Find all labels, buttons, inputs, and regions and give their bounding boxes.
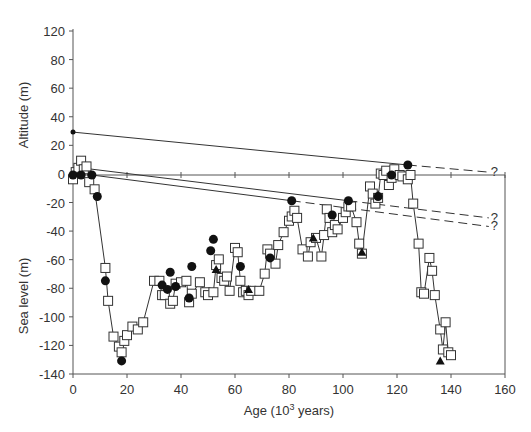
filled-circle-marker [287, 196, 296, 205]
open-square-marker [430, 291, 439, 300]
open-square-marker [409, 199, 418, 208]
y-tick-label: -60 [46, 253, 65, 268]
open-square-marker [420, 289, 429, 298]
question-mark-annotation: ? [491, 164, 498, 179]
filled-circle-marker [77, 171, 86, 180]
open-square-marker [139, 318, 148, 327]
open-square-marker [104, 296, 113, 305]
y-tick-label: -80 [46, 281, 65, 296]
filled-circle-marker [171, 282, 180, 291]
dashed-extrapolation-line [408, 165, 489, 172]
y-tick-label: 60 [51, 81, 65, 96]
y-tick-label: -100 [39, 310, 65, 325]
open-square-marker [428, 266, 437, 275]
filled-circle-marker [387, 171, 396, 180]
open-square-marker [293, 213, 302, 222]
open-square-marker [333, 225, 342, 234]
y-tick-label: -140 [39, 367, 65, 382]
open-square-marker [260, 269, 269, 278]
open-square-marker [414, 239, 423, 248]
open-square-marker [82, 162, 91, 171]
dashed-extrapolation-line [348, 201, 488, 218]
filled-circle-marker [344, 196, 353, 205]
filled-circle-marker [187, 262, 196, 271]
filled-circle-marker [166, 268, 175, 277]
x-tick-label: 160 [494, 382, 516, 397]
x-tick-label: 0 [69, 382, 76, 397]
x-tick-label: 100 [332, 382, 354, 397]
small-dot-marker [71, 130, 76, 135]
sea-level-chart: 120806040200-20-40-60-80-100-120-1400204… [0, 0, 531, 432]
open-square-marker [195, 278, 204, 287]
open-square-marker [117, 348, 126, 357]
correlation-line [81, 168, 348, 201]
open-square-marker [425, 253, 434, 262]
filled-circle-marker [163, 285, 172, 294]
open-square-marker [447, 351, 456, 360]
open-square-marker [279, 228, 288, 237]
y-tick-label: 0 [58, 167, 65, 182]
y-tick-label: -120 [39, 338, 65, 353]
open-square-marker [209, 288, 218, 297]
filled-circle-marker [93, 192, 102, 201]
open-square-marker [101, 263, 110, 272]
y-tick-label: 80 [51, 53, 65, 68]
correlation-line [73, 132, 408, 165]
x-tick-label: 140 [440, 382, 462, 397]
dashed-extrapolation-line [292, 201, 489, 227]
open-square-marker [222, 272, 231, 281]
x-tick-label: 40 [174, 382, 188, 397]
filled-circle-marker [209, 235, 218, 244]
open-square-marker [225, 286, 234, 295]
open-square-marker [317, 252, 326, 261]
filled-circle-marker [69, 171, 78, 180]
filled-circle-marker [87, 171, 96, 180]
filled-circle-marker [266, 253, 275, 262]
data-markers [69, 130, 456, 366]
correlation-line [92, 175, 292, 201]
filled-circle-marker [403, 160, 412, 169]
y-tick-label: -40 [46, 224, 65, 239]
open-square-marker [441, 318, 450, 327]
filled-circle-marker [328, 211, 337, 220]
open-square-marker [303, 252, 312, 261]
x-tick-label: 60 [228, 382, 242, 397]
open-square-marker [109, 332, 118, 341]
open-square-marker [274, 241, 283, 250]
x-tick-label: 80 [282, 382, 296, 397]
y-tick-label: 20 [51, 138, 65, 153]
x-tick-label: 20 [120, 382, 134, 397]
open-square-marker [406, 171, 415, 180]
open-square-marker [182, 276, 191, 285]
y-axis-title-sea-level: Sea level (m) [16, 258, 31, 335]
x-axis-title: Age (103 years) [244, 402, 334, 418]
y-tick-label: -20 [46, 196, 65, 211]
open-square-marker [123, 331, 132, 340]
y-tick-label: 40 [51, 110, 65, 125]
open-square-marker [168, 296, 177, 305]
y-axis-title-altitude: Altitude (m) [16, 82, 31, 148]
open-square-marker [355, 239, 364, 248]
question-mark-annotation: ? [491, 218, 498, 233]
filled-triangle-marker [436, 356, 445, 364]
filled-circle-marker [185, 293, 194, 302]
filled-circle-marker [117, 356, 126, 365]
filled-circle-marker [206, 246, 215, 255]
open-square-marker [214, 255, 223, 264]
open-square-marker [255, 286, 264, 295]
filled-circle-marker [236, 262, 245, 271]
filled-circle-marker [101, 276, 110, 285]
y-tick-label: 120 [43, 24, 65, 39]
open-square-marker [352, 218, 361, 227]
open-square-marker [233, 248, 242, 257]
x-tick-label: 120 [386, 382, 408, 397]
open-square-marker [236, 276, 245, 285]
